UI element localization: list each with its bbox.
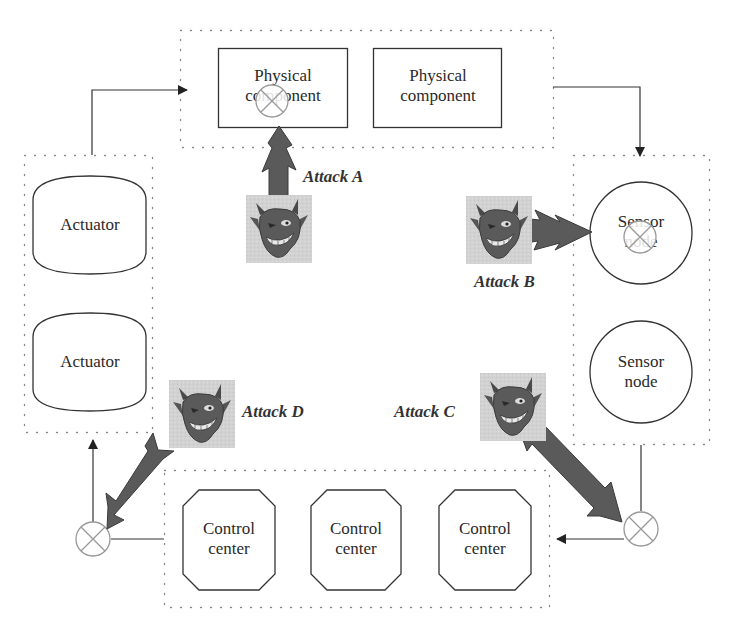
control-center-label-3: Control center (439, 519, 531, 559)
control-center-label-3-line1: Control (439, 519, 531, 539)
devil-icon (169, 380, 235, 448)
xor-junction-left-icon (76, 522, 110, 556)
attack-c-label: Attack C (394, 402, 455, 422)
sensor-node-label-1: Sensor node (591, 212, 691, 252)
devil-icon (480, 373, 546, 441)
attack-d-arrow (106, 433, 174, 529)
sensor-node-label-2-line1: Sensor (591, 352, 691, 372)
control-center-label-1-line1: Control (183, 519, 275, 539)
control-center-label-2-line2: center (311, 539, 401, 559)
attack-d-label: Attack D (242, 402, 304, 422)
physical-component-label-1: Physical component (218, 66, 348, 106)
xor-junction-right-icon (624, 512, 658, 546)
control-center-label-1: Control center (183, 519, 275, 559)
control-center-label-1-line2: center (183, 539, 275, 559)
physical-component-label-2: Physical component (398, 66, 478, 106)
sensor-node-label-2: Sensor node (591, 352, 691, 392)
devil-icon (246, 195, 312, 263)
flow-connector-physical-to-sensor (553, 87, 640, 156)
actuator-label-2: Actuator (33, 352, 147, 372)
control-center-label-2: Control center (311, 519, 401, 559)
control-center-label-3-line2: center (439, 539, 531, 559)
sensor-node-label-2-line2: node (591, 372, 691, 392)
attack-a-label: Attack A (303, 167, 363, 187)
attack-b-label: Attack B (474, 272, 535, 292)
sensor-node-label-1-line2: node (591, 232, 691, 252)
sensor-node-label-1-line1: Sensor (591, 212, 691, 232)
devil-icon (466, 196, 532, 264)
actuator-label-1: Actuator (33, 215, 147, 235)
flow-connector-actuator-to-physical (92, 90, 187, 155)
control-center-label-2-line1: Control (311, 519, 401, 539)
